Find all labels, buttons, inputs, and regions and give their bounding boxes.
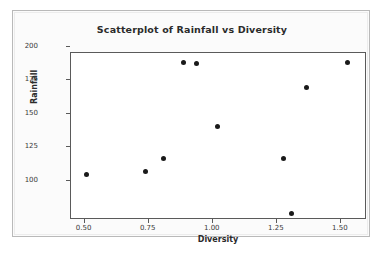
- x-tick-mark: [212, 219, 213, 223]
- x-tick-mark: [340, 219, 341, 223]
- scatter-point: [84, 172, 89, 177]
- scatter-point: [181, 60, 186, 65]
- x-tick-label: 1.25: [256, 224, 296, 232]
- scatter-points-layer: [71, 53, 365, 218]
- x-axis-title: Diversity: [70, 235, 366, 244]
- scatter-point: [161, 156, 166, 161]
- plot-area: [70, 52, 366, 219]
- y-tick-label: 100: [25, 176, 38, 184]
- y-tick-label: 125: [25, 142, 38, 150]
- y-tick-label: 150: [25, 109, 38, 117]
- y-tick-label: 200: [25, 42, 38, 50]
- x-tick-label: 1.50: [320, 224, 360, 232]
- scatter-point: [143, 169, 148, 174]
- scatter-point: [345, 60, 350, 65]
- x-tick-label: 0.50: [64, 224, 104, 232]
- x-tick-mark: [148, 219, 149, 223]
- x-tick-mark: [276, 219, 277, 223]
- figure-canvas: Scatterplot of Rainfall vs Diversity Rai…: [0, 0, 382, 257]
- scatter-point: [194, 61, 199, 66]
- scatter-point: [289, 211, 294, 216]
- chart-title: Scatterplot of Rainfall vs Diversity: [13, 24, 371, 35]
- y-tick-mark: [66, 46, 70, 47]
- scatter-point: [304, 85, 309, 90]
- x-tick-mark: [84, 219, 85, 223]
- chart-card: Scatterplot of Rainfall vs Diversity Rai…: [12, 10, 370, 237]
- x-tick-label: 1.00: [192, 224, 232, 232]
- scatter-point: [215, 124, 220, 129]
- y-tick-label: 175: [25, 75, 38, 83]
- scatter-point: [281, 156, 286, 161]
- x-tick-label: 0.75: [128, 224, 168, 232]
